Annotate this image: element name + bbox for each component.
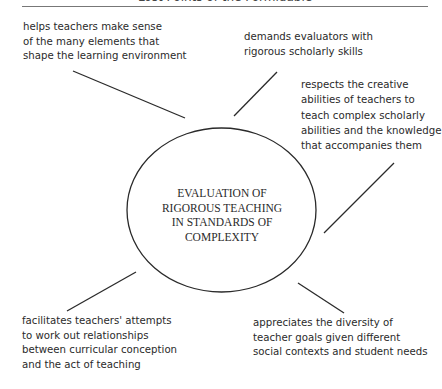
connector-right [324, 163, 394, 233]
node-right: respects the creative abilities of teach… [301, 77, 441, 153]
connector-bottom-right [298, 283, 344, 313]
connector-bottom-left [67, 272, 136, 311]
connector-top-right [234, 72, 277, 116]
connector-top-left [73, 71, 185, 118]
center-label: EVALUATION OF RIGOROUS TEACHING IN STAND… [147, 186, 297, 244]
node-top-right: demands evaluators with rigorous scholar… [244, 30, 373, 59]
node-top-left: helps teachers make sense of the many el… [23, 20, 187, 64]
node-bottom-right: appreciates the diversity of teacher goa… [253, 316, 428, 360]
node-bottom-left: facilitates teachers' attempts to work o… [22, 314, 177, 372]
